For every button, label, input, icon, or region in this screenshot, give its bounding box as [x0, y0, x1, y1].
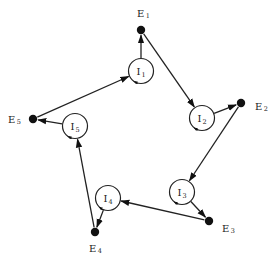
- external-node-e1: [137, 26, 145, 34]
- node-dot: [137, 26, 145, 34]
- node-label: E2: [255, 101, 268, 113]
- cycle-diagram: I1I2I3I4I5 E1E2E3E4E5: [0, 0, 276, 263]
- internal-node-i3: I3: [170, 180, 195, 205]
- external-node-e4: [91, 228, 99, 236]
- edge-i4-to-e4: [97, 210, 104, 227]
- edge-i2-to-e2: [214, 105, 236, 113]
- node-label: E3: [222, 223, 235, 235]
- external-node-e2: [237, 99, 245, 107]
- labels-layer: E1E2E3E4E5: [8, 8, 268, 255]
- internal-node-i1: I1: [129, 59, 154, 84]
- internal-node-i5: I5: [63, 114, 88, 139]
- node-dot: [205, 217, 213, 225]
- edge-e4-to-i5: [78, 139, 95, 227]
- edge-e5-to-i1: [37, 76, 128, 117]
- node-label: E5: [8, 114, 21, 126]
- node-label: E1: [137, 8, 150, 20]
- edge-i5-to-e5: [38, 120, 62, 124]
- external-node-e5: [29, 115, 37, 123]
- edge-i3-to-e3: [191, 202, 206, 218]
- node-dot: [91, 228, 99, 236]
- edge-e3-to-i4: [121, 201, 204, 220]
- external-node-e3: [205, 217, 213, 225]
- internal-node-i2: I2: [190, 106, 215, 131]
- node-dot: [237, 99, 245, 107]
- internal-node-i4: I4: [96, 186, 121, 211]
- node-dot: [29, 115, 37, 123]
- node-label: E4: [89, 243, 102, 255]
